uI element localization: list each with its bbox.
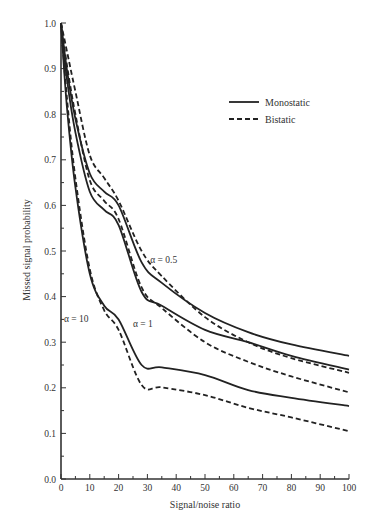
alpha-label: α = 10 [64, 314, 89, 324]
legend: MonostaticBistatic [229, 97, 311, 125]
x-tick-label: 60 [229, 483, 239, 493]
alpha-label: α = 1 [133, 319, 153, 329]
series-line [61, 23, 349, 373]
y-tick-label: 0.2 [44, 383, 56, 393]
y-tick-label: 0.1 [44, 429, 56, 439]
y-tick-label: 0.5 [44, 247, 56, 257]
y-tick-label: 0.3 [44, 338, 56, 348]
y-tick-label: 1.0 [44, 19, 56, 29]
chart-canvas: 01020304050607080901000.00.10.20.30.40.5… [0, 0, 376, 529]
x-tick-label: 0 [59, 483, 64, 493]
series-layer [61, 23, 349, 431]
legend-label: Bistatic [265, 114, 296, 125]
annotations: α = 0.5α = 1α = 10 [64, 255, 178, 329]
y-tick-label: 0.4 [44, 292, 56, 302]
y-axis-title: Missed signal probability [21, 199, 32, 301]
x-tick-label: 10 [85, 483, 95, 493]
y-tick-label: 0.0 [44, 475, 56, 485]
legend-label: Monostatic [265, 97, 311, 108]
series-line [61, 23, 349, 392]
x-tick-label: 40 [171, 483, 181, 493]
series-line [61, 23, 349, 431]
alpha-label: α = 0.5 [150, 255, 177, 265]
x-tick-label: 90 [315, 483, 325, 493]
x-tick-label: 80 [287, 483, 297, 493]
y-tick-label: 0.6 [44, 201, 56, 211]
series-line [61, 23, 349, 406]
x-tick-label: 50 [200, 483, 210, 493]
y-tick-label: 0.9 [44, 64, 56, 74]
y-tick-label: 0.8 [44, 110, 56, 120]
x-tick-label: 30 [143, 483, 153, 493]
axes: 01020304050607080901000.00.10.20.30.40.5… [44, 19, 356, 494]
x-tick-label: 20 [114, 483, 124, 493]
chart: 01020304050607080901000.00.10.20.30.40.5… [0, 0, 376, 529]
x-tick-label: 70 [258, 483, 268, 493]
x-axis-title: Signal/noise ratio [170, 499, 240, 510]
x-tick-label: 100 [342, 483, 357, 493]
y-tick-label: 0.7 [44, 155, 56, 165]
